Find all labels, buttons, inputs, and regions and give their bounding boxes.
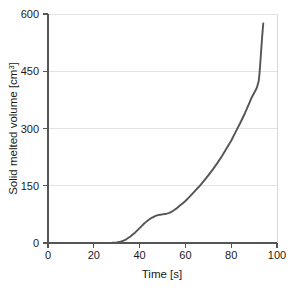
- x-tick-label: 60: [179, 249, 191, 261]
- x-tick-label: 20: [88, 249, 100, 261]
- x-tick-label: 0: [45, 249, 51, 261]
- y-tick-label: 600: [21, 8, 39, 20]
- x-tick-labels: 0 20 40 60 80 100: [45, 249, 286, 261]
- y-axis-title: Solid melted volume [cm3]: [7, 62, 20, 195]
- chart-figure: 0 20 40 60 80 100 0 150 300 450 600 Time…: [0, 0, 298, 288]
- y-tick-label: 450: [21, 65, 39, 77]
- y-tick-labels: 0 150 300 450 600: [21, 8, 39, 249]
- y-tick-label: 150: [21, 180, 39, 192]
- x-tick-label: 100: [268, 249, 286, 261]
- y-tick-label: 300: [21, 123, 39, 135]
- x-axis-title: Time [s]: [142, 268, 182, 280]
- line-chart: 0 20 40 60 80 100 0 150 300 450 600 Time…: [0, 0, 298, 288]
- y-tick-label: 0: [33, 237, 39, 249]
- x-tick-label: 40: [133, 249, 145, 261]
- y-axis-title-tail: ]: [7, 62, 19, 65]
- x-tick-label: 80: [225, 249, 237, 261]
- y-axis-title-base: Solid melted volume [cm: [7, 70, 19, 195]
